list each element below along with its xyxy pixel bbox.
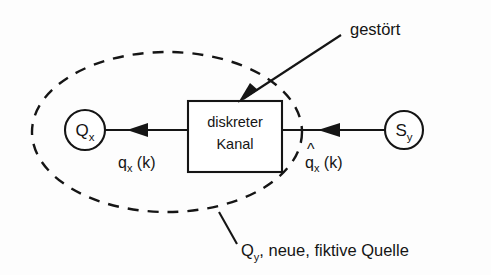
output-signal-hat: ^ xyxy=(307,141,315,158)
diagram-canvas: Qx Sy diskreter Kanal qx (k) qx (k) ^ ge… xyxy=(0,0,491,275)
disturbance-annotation: gestört xyxy=(350,20,401,38)
boundary-caption: Qy, neue, fiktive Quelle xyxy=(241,241,409,263)
channel-box-line1: diskreter xyxy=(207,114,263,130)
output-arrowhead xyxy=(318,123,340,137)
diagram-svg: Qx Sy diskreter Kanal qx (k) qx (k) ^ ge… xyxy=(0,0,491,275)
input-signal-label: qx (k) xyxy=(118,154,156,174)
channel-box-line2: Kanal xyxy=(216,136,253,152)
caption-leader-line xyxy=(219,212,237,244)
input-arrowhead xyxy=(127,123,148,137)
disturbance-leader-line xyxy=(243,35,341,99)
